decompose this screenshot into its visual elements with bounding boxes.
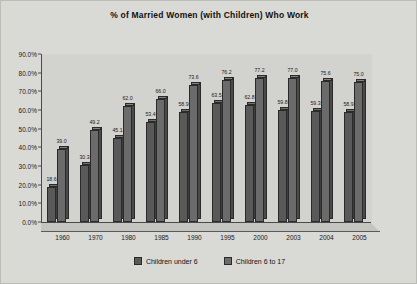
- x-axis: 1960197019801985199019952000200320042005: [41, 234, 379, 246]
- bar[interactable]: 62.8: [245, 105, 254, 222]
- bar-value-label: 39.0: [56, 138, 66, 144]
- bar-top: [59, 146, 68, 149]
- bar[interactable]: 75.6: [321, 81, 330, 222]
- bar[interactable]: 75.0: [354, 82, 363, 222]
- bar-value-label: 66.0: [155, 88, 165, 94]
- plot-area: 0.0%10.0%20.0%30.0%40.0%50.0%60.0%70.0%8…: [41, 54, 379, 231]
- bar-value-label: 49.2: [89, 119, 99, 125]
- x-axis-tick-label: 1990: [187, 234, 201, 241]
- bar-top: [257, 75, 266, 78]
- bar-face: [245, 105, 254, 222]
- bar-group: 58.973.6: [173, 54, 206, 222]
- bar-top: [92, 127, 101, 130]
- bar[interactable]: 73.6: [189, 85, 198, 222]
- bar-face: [212, 103, 221, 222]
- chart-legend: Children under 6Children 6 to 17: [1, 257, 417, 265]
- bar-top: [224, 77, 233, 80]
- bar-top: [290, 75, 299, 78]
- bar-top: [125, 103, 134, 106]
- bar-value-label: 59.3: [310, 100, 320, 106]
- bar-face: [278, 110, 287, 222]
- x-axis-tick-label: 2005: [352, 234, 366, 241]
- bar[interactable]: 18.6: [47, 187, 56, 222]
- bar-value-label: 58.9: [178, 101, 188, 107]
- bar-side: [99, 127, 102, 219]
- bar-value-label: 59.8: [277, 99, 287, 105]
- y-axis-tick-label: 70.0%: [19, 88, 37, 95]
- bar-face: [47, 187, 56, 222]
- bar[interactable]: 39.0: [57, 149, 66, 222]
- bar-side: [297, 75, 300, 219]
- bar-group: 63.576.2: [206, 54, 239, 222]
- bar-side: [132, 103, 135, 219]
- y-axis-tick-label: 10.0%: [19, 200, 37, 207]
- bar-face: [344, 112, 353, 222]
- bar-face: [311, 111, 320, 222]
- bar[interactable]: 77.2: [255, 78, 264, 222]
- y-axis-tick-label: 50.0%: [19, 125, 37, 132]
- bar-top: [323, 78, 332, 81]
- bar-face: [146, 122, 155, 222]
- x-axis-tick-label: 1985: [154, 234, 168, 241]
- bar-value-label: 75.0: [353, 71, 363, 77]
- bar[interactable]: 76.2: [222, 80, 231, 222]
- y-axis-tick-label: 60.0%: [19, 107, 37, 114]
- bar[interactable]: 77.0: [288, 78, 297, 222]
- bar-top: [356, 79, 365, 82]
- bar-side: [264, 75, 267, 219]
- y-axis-tick-label: 80.0%: [19, 69, 37, 76]
- bar-value-label: 77.2: [254, 67, 264, 73]
- bar[interactable]: 45.1: [113, 138, 122, 222]
- x-axis-tick-label: 2000: [253, 234, 267, 241]
- bar-face: [113, 138, 122, 222]
- x-axis-tick-label: 2004: [319, 234, 333, 241]
- bar-group: 30.349.2: [74, 54, 107, 222]
- y-axis-tick-label: 90.0%: [19, 51, 37, 58]
- bar[interactable]: 49.2: [90, 130, 99, 222]
- bar[interactable]: 30.3: [80, 165, 89, 222]
- bar-value-label: 63.5: [211, 92, 221, 98]
- x-axis-tick-label: 1995: [220, 234, 234, 241]
- bar-face: [354, 82, 363, 222]
- x-axis-tick-label: 2003: [286, 234, 300, 241]
- bar-face: [288, 78, 297, 222]
- bar-value-label: 77.0: [287, 67, 297, 73]
- bar-group: 58.975.0: [338, 54, 371, 222]
- legend-swatch-icon: [134, 257, 142, 265]
- bar-side: [165, 96, 168, 219]
- legend-swatch-icon: [224, 257, 232, 265]
- bar-face: [80, 165, 89, 222]
- bar-value-label: 62.0: [122, 95, 132, 101]
- bar[interactable]: 53.4: [146, 122, 155, 222]
- bar[interactable]: 59.8: [278, 110, 287, 222]
- bar-face: [255, 78, 264, 222]
- bar[interactable]: 58.9: [344, 112, 353, 222]
- bar-side: [66, 146, 69, 219]
- bar-value-label: 58.9: [343, 101, 353, 107]
- bar-face: [222, 80, 231, 222]
- legend-item[interactable]: Children under 6: [134, 257, 198, 265]
- bar-value-label: 75.6: [320, 70, 330, 76]
- bar-group: 62.877.2: [239, 54, 272, 222]
- bar-value-label: 45.1: [112, 127, 122, 133]
- bar-value-label: 76.2: [221, 69, 231, 75]
- bar[interactable]: 62.0: [123, 106, 132, 222]
- y-axis-tick-label: 0.0%: [22, 219, 37, 226]
- bar-face: [57, 149, 66, 222]
- bar-side: [330, 78, 333, 219]
- bar[interactable]: 59.3: [311, 111, 320, 222]
- y-axis-tick-label: 40.0%: [19, 144, 37, 151]
- x-axis-tick-label: 1960: [55, 234, 69, 241]
- bar[interactable]: 66.0: [156, 99, 165, 222]
- bar-face: [90, 130, 99, 222]
- bar-face: [321, 81, 330, 222]
- bar-value-label: 53.4: [145, 111, 155, 117]
- legend-item[interactable]: Children 6 to 17: [224, 257, 285, 265]
- bar-top: [158, 96, 167, 99]
- bar-face: [189, 85, 198, 222]
- bar-group: 59.375.6: [305, 54, 338, 222]
- bar[interactable]: 63.5: [212, 103, 221, 222]
- bar-side: [231, 77, 234, 219]
- bar-value-label: 73.6: [188, 74, 198, 80]
- bar[interactable]: 58.9: [179, 112, 188, 222]
